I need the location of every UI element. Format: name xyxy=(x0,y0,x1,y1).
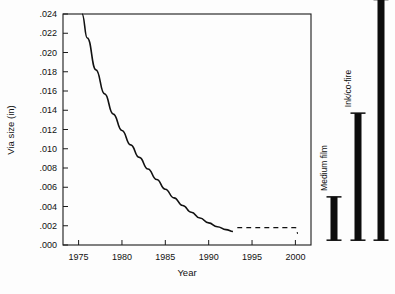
chart-figure: .000.002.004.006.008.010.012.014.016.018… xyxy=(0,0,395,294)
y-tick-label: .018 xyxy=(39,67,57,77)
y-tick-label: .000 xyxy=(39,240,57,250)
x-tick-label: 1990 xyxy=(199,252,219,262)
range-bar-body xyxy=(355,113,362,240)
chart-background xyxy=(0,0,395,294)
y-tick-label: .024 xyxy=(39,9,57,19)
range-bar-label: Ink/co-fire xyxy=(343,70,353,108)
x-tick-label: 1985 xyxy=(155,252,175,262)
y-tick-label: .016 xyxy=(39,86,57,96)
y-tick-label: .014 xyxy=(39,105,57,115)
via-size-chart: .000.002.004.006.008.010.012.014.016.018… xyxy=(0,0,395,294)
range-bar-label: Medium film xyxy=(319,145,329,191)
y-tick-label: .012 xyxy=(39,125,57,135)
y-tick-label: .020 xyxy=(39,48,57,58)
x-tick-label: 1995 xyxy=(242,252,262,262)
y-axis-title: Via size (in) xyxy=(5,105,16,154)
range-bar-body xyxy=(378,0,385,240)
range-bar-body xyxy=(331,197,338,240)
y-tick-label: .022 xyxy=(39,28,57,38)
x-tick-label: 1975 xyxy=(69,252,89,262)
y-tick-label: .008 xyxy=(39,163,57,173)
x-tick-label: 2000 xyxy=(285,252,305,262)
y-tick-label: .004 xyxy=(39,202,57,212)
x-axis-title: Year xyxy=(177,267,196,278)
y-tick-label: .010 xyxy=(39,144,57,154)
x-tick-label: 1980 xyxy=(112,252,132,262)
y-tick-label: .002 xyxy=(39,221,57,231)
y-tick-label: .006 xyxy=(39,182,57,192)
